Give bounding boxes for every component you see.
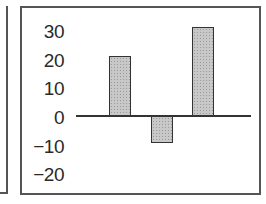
y-tick-label: 10 [44, 79, 64, 98]
y-tick-label: 0 [54, 108, 64, 127]
y-tick-label: −10 [33, 136, 64, 155]
bar-2 [151, 116, 173, 143]
y-tick-label: −20 [33, 165, 64, 184]
adjacent-panel-edge [0, 6, 8, 194]
bar-1 [109, 56, 131, 116]
bar-3 [192, 27, 214, 116]
y-tick-label: 20 [44, 50, 64, 69]
y-tick-label: 30 [44, 22, 64, 41]
